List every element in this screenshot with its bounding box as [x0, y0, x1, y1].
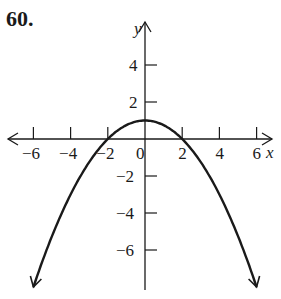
y-tick-label: −2 — [116, 167, 134, 186]
parabola-graph: yx−6−4−2246042−2−4−6 — [0, 0, 281, 299]
x-tick-label: −2 — [96, 144, 114, 163]
y-tick-label: −4 — [116, 204, 135, 223]
y-tick-label: 4 — [129, 56, 138, 75]
y-tick-label: 2 — [129, 93, 138, 112]
x-tick-label: −6 — [22, 144, 40, 163]
x-tick-label: −4 — [59, 144, 78, 163]
x-tick-label: 2 — [178, 144, 187, 163]
x-axis-label: x — [265, 143, 274, 162]
x-tick-label: 4 — [215, 144, 224, 163]
y-tick-label: −6 — [116, 241, 134, 260]
x-tick-label: 6 — [253, 144, 262, 163]
y-axis-label: y — [132, 19, 142, 38]
origin-label: 0 — [136, 144, 145, 163]
